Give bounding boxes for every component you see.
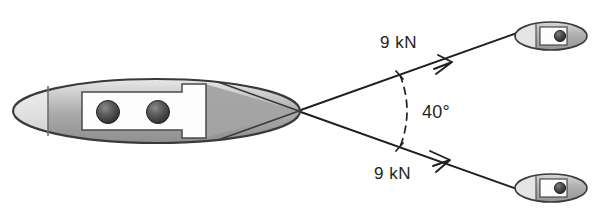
angle-label: 40° [422, 102, 450, 122]
barge-bollard [97, 101, 120, 124]
diagram-canvas: 40° 9 kN 9 kN [0, 0, 612, 209]
upper-force-label: 9 kN [380, 33, 417, 52]
towing-diagram-svg: 40° 9 kN 9 kN [0, 0, 612, 209]
lower-tugboat-winch [554, 182, 565, 193]
angle-arc-icon [400, 75, 407, 147]
lower-force-label: 9 kN [374, 164, 411, 183]
angle-marker-group: 40° [396, 71, 450, 151]
upper-tugboat [513, 22, 587, 50]
towed-barge [10, 78, 300, 144]
upper-tugboat-winch [554, 30, 565, 41]
barge-bow-panel [10, 78, 48, 144]
lower-tugboat [513, 174, 587, 202]
barge-bollard [147, 101, 170, 124]
